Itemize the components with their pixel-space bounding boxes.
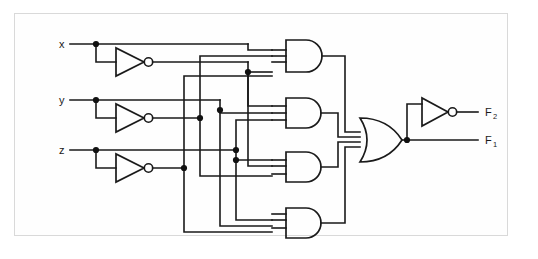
junction-dot — [197, 115, 203, 121]
input-label-x: x — [59, 38, 65, 50]
circuit-schematic: x y z — [0, 0, 538, 259]
bus-y-true — [220, 100, 272, 226]
output-label-f1: F — [485, 134, 492, 146]
junction-dot — [93, 147, 99, 153]
not-gate-x — [116, 48, 248, 76]
junction-dot — [233, 157, 239, 163]
junction-dot — [245, 69, 251, 75]
output-label-f1-subscript: 1 — [493, 140, 497, 149]
not-gate-y — [116, 104, 200, 132]
bus-z-true — [236, 120, 272, 220]
junction-dot — [404, 137, 410, 143]
output-label-f2: F — [485, 106, 492, 118]
and-gate-3 — [272, 142, 360, 182]
junction-dot — [233, 147, 239, 153]
or-gate-sum — [360, 118, 407, 162]
input-label-z: z — [59, 144, 65, 156]
output-label-f2-subscript: 2 — [493, 112, 497, 121]
junction-dot — [93, 41, 99, 47]
and-gate-2 — [272, 98, 360, 137]
junction-dot — [217, 107, 223, 113]
input-label-y: y — [59, 94, 65, 106]
bus-x — [248, 44, 272, 166]
not-gate-z — [116, 154, 184, 182]
circuit-diagram-canvas: x y z — [0, 0, 538, 259]
junction-dot — [181, 165, 187, 171]
junction-dot — [93, 97, 99, 103]
output-inverter-branch — [407, 98, 478, 140]
